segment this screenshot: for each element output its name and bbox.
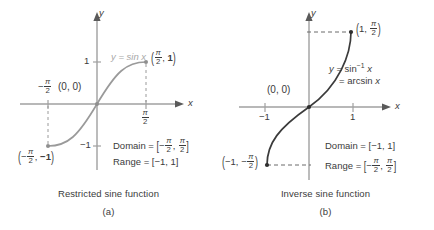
point-a-lower-y: −1 <box>40 151 51 162</box>
panel-b-origin-label: (0, 0) <box>267 84 290 96</box>
open-paren: ( <box>356 21 359 37</box>
panel-b-xtick-neg1: −1 <box>259 112 270 123</box>
panel-a-caption-title: Restricted sine function <box>0 188 217 199</box>
minus-sign: − <box>159 140 165 151</box>
panel-b-xtick-1: 1 <box>350 112 355 123</box>
panel-a-xtick-pi-over-2: π2 <box>141 109 149 126</box>
range-prefix: Range = <box>325 160 364 171</box>
y-var: y <box>329 63 334 74</box>
panel-a-y-axis-label: y <box>99 8 104 19</box>
minus-sign: − <box>21 151 27 162</box>
panel-a-domain: Domain = [−π2, π2] <box>113 137 189 154</box>
open-paren: ( <box>18 149 21 165</box>
panel-b-x-axis-label: x <box>395 101 400 112</box>
panel-a-range: Range = [−1, 1] <box>113 155 179 169</box>
minus-sign: − <box>38 81 44 92</box>
panel-b-range: Range = [−π2, π2] <box>325 157 396 174</box>
domain-value: [−1, 1] <box>369 140 396 151</box>
panel-a-caption-letter: (a) <box>0 206 217 217</box>
x-axis <box>20 100 184 107</box>
x-axis <box>239 103 391 110</box>
y-axis <box>305 12 312 180</box>
panel-b-caption-title: Inverse sine function <box>217 188 434 199</box>
panel-a-ytick-neg1: −1 <box>80 140 91 151</box>
panel-restricted-sine: y x 1 −1 −π2 π2 (0, 0) y = sin x (π2, 1)… <box>0 0 217 230</box>
minus-sign: − <box>366 160 372 171</box>
inverse-sine-figure: y x 1 −1 −π2 π2 (0, 0) y = sin x (π2, 1)… <box>0 0 434 230</box>
open-paren: ( <box>151 50 154 66</box>
panel-inverse-sine: y x −1 1 (0, 0) y = sin−1 x = arcsin x (… <box>217 0 434 230</box>
panel-b-domain: Domain = [−1, 1] <box>325 139 395 153</box>
close-paren: ) <box>173 50 176 66</box>
panel-b-point-label-upper: (1, π2) <box>356 20 381 37</box>
panel-b-point-label-lower: (−1, −π2) <box>222 153 258 170</box>
range-prefix: Range = <box>113 156 152 167</box>
panel-a-point-label-upper: (π2, 1) <box>151 49 176 66</box>
two-denominator: 2 <box>142 117 149 126</box>
minus-sign: − <box>241 156 247 167</box>
panel-b-function-label-line1: y = sin−1 x <box>329 62 372 75</box>
panel-a-xtick-neg-pi-over-2: −π2 <box>38 78 52 95</box>
panel-b-function-label-line2: = arcsin x <box>339 76 380 87</box>
open-paren: ( <box>222 154 225 170</box>
pi-numerator: π <box>142 109 149 117</box>
panel-a-ytick-1: 1 <box>84 56 89 67</box>
panel-a-point-label-lower: (−π2, −1) <box>18 148 54 165</box>
x-var: x <box>367 63 372 74</box>
panel-a-origin-label: (0, 0) <box>58 81 81 93</box>
close-paren: ) <box>255 154 258 170</box>
domain-prefix: Domain = <box>325 140 369 151</box>
range-value: [−1, 1] <box>152 156 179 167</box>
two-denominator: 2 <box>44 86 51 95</box>
comma: , <box>364 23 369 34</box>
close-paren: ) <box>378 21 381 37</box>
domain-prefix: Domain = <box>113 140 157 151</box>
panel-a-function-label: y = sin x <box>111 52 146 63</box>
pi-numerator: π <box>44 78 51 86</box>
panel-b-caption-letter: (b) <box>217 206 434 217</box>
point-b-lower-x: −1 <box>225 156 236 167</box>
panel-a-x-axis-label: x <box>188 98 193 109</box>
exponent-minus-one: −1 <box>357 62 365 69</box>
close-paren: ) <box>51 149 54 165</box>
x-var: x <box>375 75 380 86</box>
panel-b-y-axis-label: y <box>311 8 316 19</box>
